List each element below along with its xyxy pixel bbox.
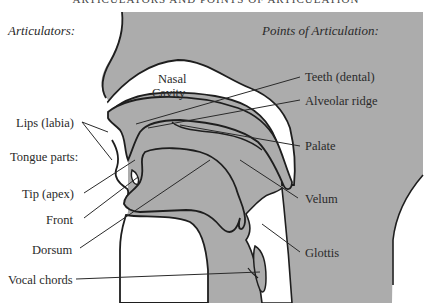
label-alveolar-ridge: Alveolar ridge [305, 94, 378, 108]
label-lips: Lips (labia) [16, 116, 74, 130]
label-dorsum: Dorsum [32, 243, 72, 257]
label-tip: Tip (apex) [22, 187, 74, 201]
label-palate: Palate [305, 139, 336, 153]
label-front: Front [46, 213, 73, 227]
label-glottis: Glottis [305, 246, 339, 260]
label-vocal-chords: Vocal chords [8, 273, 73, 287]
label-teeth: Teeth (dental) [305, 70, 375, 84]
articulation-diagram: ARTICULATORS AND POINTS OF ARTICULATION [0, 0, 432, 303]
points-header: Points of Articulation: [262, 24, 379, 38]
nasal-cavity-label-1: Nasal [158, 72, 186, 86]
label-tongue-parts: Tongue parts: [10, 150, 78, 164]
articulators-header: Articulators: [8, 24, 75, 38]
nasal-cavity-label-2: Cavity [152, 86, 185, 100]
label-velum: Velum [305, 192, 338, 206]
